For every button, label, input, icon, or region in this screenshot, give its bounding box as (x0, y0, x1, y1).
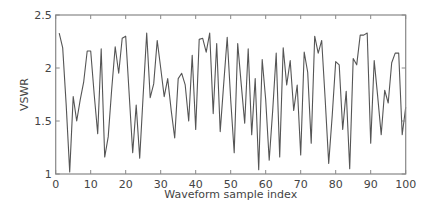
y-tick-label: 2.5 (34, 9, 52, 22)
x-tick-label: 20 (119, 178, 133, 191)
x-tick-label: 90 (364, 178, 378, 191)
y-axis-label: VSWR (18, 78, 31, 111)
chart: 0102030405060708090100 11.522.5 Waveform… (0, 0, 434, 213)
x-tick-label: 0 (52, 178, 59, 191)
y-tick-label: 1.5 (34, 115, 52, 128)
y-tick-label: 1 (45, 168, 52, 181)
x-tick-label: 10 (84, 178, 98, 191)
series-line-vswr (59, 33, 406, 172)
x-axis-label: Waveform sample index (164, 188, 297, 201)
y-tick-label: 2 (45, 62, 52, 75)
x-tick-label: 80 (329, 178, 343, 191)
x-axis-ticks: 0102030405060708090100 (52, 15, 416, 191)
x-tick-label: 100 (395, 178, 416, 191)
